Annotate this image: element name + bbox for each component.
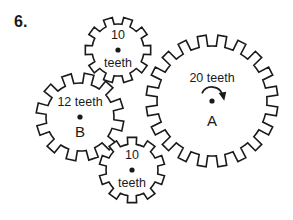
bottom-gear-teeth-word-label: teeth [118, 176, 146, 190]
gear-a-hub-dot [209, 98, 214, 103]
top-gear-teeth-count-label: 10 [111, 28, 125, 42]
gear-problem-figure: 6. 10teeth12 teethB10teeth20 teethA [0, 0, 293, 220]
gear-b-hub-dot [77, 114, 82, 119]
gear-b-name-label: B [75, 123, 85, 140]
top-gear-hub-dot [115, 47, 120, 52]
bottom-gear-hub-dot [129, 167, 134, 172]
gear-a-teeth-count-label: 20 teeth [189, 71, 234, 85]
top-gear: 10teeth [85, 18, 150, 83]
gear-diagram-canvas: 10teeth12 teethB10teeth20 teethA [0, 0, 293, 220]
gear-a: 20 teethA [146, 35, 277, 166]
gear-a-name-label: A [207, 112, 217, 129]
bottom-gear-teeth-count-label: 10 [125, 148, 139, 162]
bottom-gear: 10teeth [100, 137, 165, 202]
gear-b-teeth-count-label: 12 teeth [57, 95, 102, 109]
top-gear-teeth-word-label: teeth [104, 56, 132, 70]
